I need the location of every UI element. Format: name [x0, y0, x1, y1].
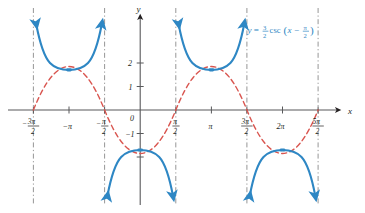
x-tick-neg-3pi-2-den: 2: [31, 127, 35, 136]
x-tick-3pi-2-num: 3π: [240, 117, 249, 126]
y-axis-label: y: [136, 4, 141, 14]
x-tick-neg-3pi-2-num: 3π: [27, 117, 36, 126]
equation-lhs: y: [247, 25, 252, 35]
y-tick-label-2: 2: [128, 59, 132, 68]
vertex-dot-2pi: [280, 148, 286, 151]
x-tick-3pi-2-den: 2: [244, 127, 248, 136]
x-tick-label-2pi: 2π: [276, 122, 285, 131]
equation-shift-denominator: 2: [304, 32, 307, 39]
vertex-dot-zero: [137, 148, 143, 151]
vertex-dot-pi: [209, 68, 215, 71]
graph-figure: − 3π 2 −π − π 2 π 2 π 3π 2 2π: [0, 0, 365, 213]
equation-argument-variable: x: [287, 25, 292, 35]
equation-minus-sign: −: [294, 25, 299, 35]
x-tick-5pi-2-den: 2: [316, 127, 320, 136]
y-tick-label-0: 0: [130, 114, 134, 123]
x-tick-pi-2-num: π: [173, 117, 177, 126]
x-tick-neg-pi-2-sign: −: [96, 119, 101, 128]
equation-equals: =: [254, 25, 259, 35]
y-tick-label-neg-1: −1: [125, 130, 134, 139]
equation-close-paren: ): [310, 24, 314, 37]
x-tick-neg-pi-2-num: π: [102, 117, 106, 126]
x-tick-pi-2-den: 2: [173, 127, 177, 136]
x-tick-neg-3pi-2-sign: −: [22, 119, 27, 128]
x-tick-neg-pi-2-den: 2: [102, 127, 106, 136]
y-tick-label-1: 1: [128, 83, 132, 92]
vertex-dot-neg-pi: [66, 68, 72, 71]
equation-function-name: csc: [270, 25, 281, 35]
x-tick-5pi-2-num: 5π: [313, 117, 321, 126]
x-tick-label-neg-pi: −π: [63, 122, 73, 131]
equation-amplitude-denominator: 2: [263, 32, 266, 39]
x-axis-label: x: [347, 106, 352, 116]
